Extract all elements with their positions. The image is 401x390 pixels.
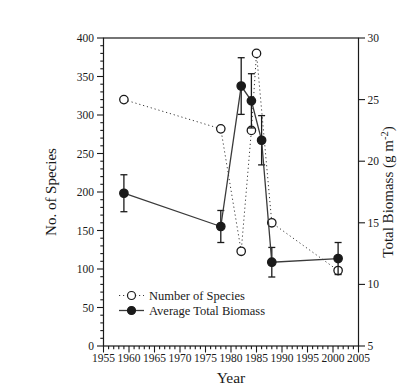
svg-text:Average Total Biomass: Average Total Biomass xyxy=(149,304,265,318)
svg-text:150: 150 xyxy=(77,225,95,237)
svg-text:50: 50 xyxy=(83,302,95,314)
svg-text:1990: 1990 xyxy=(271,352,294,364)
svg-text:250: 250 xyxy=(77,148,95,160)
svg-text:1965: 1965 xyxy=(143,352,166,364)
legend: Number of SpeciesAverage Total Biomass xyxy=(119,289,265,318)
svg-text:1995: 1995 xyxy=(296,352,319,364)
svg-text:400: 400 xyxy=(77,32,95,44)
chart-svg: 1955196019651970197519801985199019952000… xyxy=(40,16,401,390)
svg-text:1970: 1970 xyxy=(169,352,192,364)
svg-text:0: 0 xyxy=(88,340,94,352)
svg-text:15: 15 xyxy=(368,217,380,229)
svg-text:20: 20 xyxy=(368,155,380,167)
y-axis-left: 050100150200250300350400No. of Species xyxy=(43,32,104,352)
series-number-of-species xyxy=(120,49,343,275)
svg-text:2000: 2000 xyxy=(322,352,345,364)
y-axis-right: 51015202530Total Biomass (g m-2) xyxy=(359,32,398,352)
svg-text:No. of Species: No. of Species xyxy=(43,148,59,236)
svg-text:1955: 1955 xyxy=(92,352,115,364)
svg-text:Number of Species: Number of Species xyxy=(149,289,245,303)
series-average-total-biomass xyxy=(120,58,343,277)
svg-text:10: 10 xyxy=(368,278,380,290)
svg-text:200: 200 xyxy=(77,186,95,198)
svg-text:1975: 1975 xyxy=(194,352,217,364)
svg-text:25: 25 xyxy=(368,94,380,106)
svg-text:100: 100 xyxy=(77,263,95,275)
svg-text:350: 350 xyxy=(77,71,95,83)
svg-text:1985: 1985 xyxy=(245,352,268,364)
svg-text:1960: 1960 xyxy=(118,352,141,364)
svg-text:Year: Year xyxy=(217,369,246,386)
chart-figure: 1955196019651970197519801985199019952000… xyxy=(40,16,401,390)
svg-text:300: 300 xyxy=(77,109,95,121)
svg-text:1980: 1980 xyxy=(220,352,243,364)
svg-text:30: 30 xyxy=(368,32,380,44)
svg-text:5: 5 xyxy=(368,340,374,352)
svg-text:Total Biomass (g m-2): Total Biomass (g m-2) xyxy=(379,126,397,257)
svg-text:2005: 2005 xyxy=(347,352,370,364)
x-axis: 1955196019651970197519801985199019952000… xyxy=(92,346,370,386)
